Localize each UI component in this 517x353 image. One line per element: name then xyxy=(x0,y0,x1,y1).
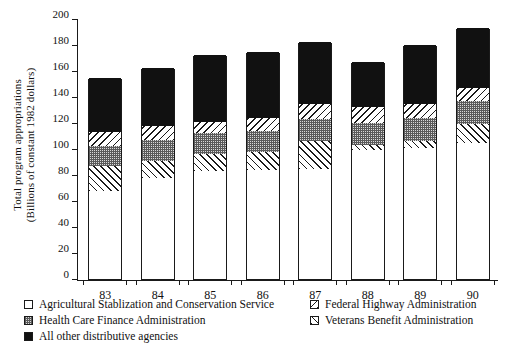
legend-item[interactable]: Health Care Finance Administration xyxy=(24,313,274,328)
x-axis-tick xyxy=(451,280,452,285)
bar-88[interactable] xyxy=(351,63,385,280)
legend-item-label: Veterans Benefit Administration xyxy=(325,313,473,328)
y-axis-title-line-2: (Billions of constant 1982 dollars) xyxy=(24,68,37,222)
y-axis-tick xyxy=(72,19,78,20)
bar-segment xyxy=(352,123,384,145)
bar-segment xyxy=(352,150,384,279)
x-axis-tick xyxy=(494,280,495,285)
bar-chart-figure: Total program appropriations (Billions o… xyxy=(0,0,517,353)
x-axis-tick xyxy=(284,280,285,285)
y-axis-tick xyxy=(72,175,78,176)
bar-85[interactable] xyxy=(193,56,227,280)
y-axis-tick-label-text: 200 xyxy=(53,14,70,15)
y-axis-tick-label-text: 100 xyxy=(53,144,70,145)
x-axis-tick xyxy=(389,280,390,285)
bar-90[interactable] xyxy=(456,29,490,280)
bar-segment xyxy=(247,170,279,279)
x-axis-tick xyxy=(231,280,232,285)
legend-swatch-icon xyxy=(24,300,33,309)
plot-area: 020406080100120140160180200 838485868788… xyxy=(78,20,498,280)
x-axis-tick xyxy=(83,280,84,285)
bar-segment xyxy=(194,171,226,279)
bar-segment xyxy=(142,140,174,161)
y-axis-tick xyxy=(72,123,78,124)
x-axis-tick xyxy=(126,280,127,285)
x-axis-tick xyxy=(336,280,337,285)
bar-segment xyxy=(352,107,384,123)
x-axis-tick xyxy=(188,280,189,285)
x-axis-tick xyxy=(241,280,242,285)
y-axis-tick-label-text: 160 xyxy=(53,66,70,67)
y-axis-title: Total program appropriations (Billions o… xyxy=(0,0,48,290)
bar-segment xyxy=(247,152,279,170)
bar-segment xyxy=(457,88,489,101)
bar-87[interactable] xyxy=(298,43,332,280)
bar-segment xyxy=(352,145,384,150)
bar-segment xyxy=(247,118,279,131)
bar-segment xyxy=(89,132,121,146)
legend-column-right: Federal Highway AdministrationVeterans B… xyxy=(310,297,476,329)
bar-segment xyxy=(457,28,489,88)
y-axis-tick xyxy=(72,227,78,228)
bar-segment xyxy=(194,154,226,171)
y-axis-tick xyxy=(72,97,78,98)
x-axis-line xyxy=(77,280,498,281)
bar-84[interactable] xyxy=(141,69,175,280)
legend-item[interactable]: All other distributive agencies xyxy=(24,329,274,344)
legend-item-label: Health Care Finance Administration xyxy=(39,313,205,328)
bar-segment xyxy=(352,62,384,108)
legend-item[interactable]: Federal Highway Administration xyxy=(310,297,476,312)
y-axis-tick xyxy=(72,149,78,150)
legend-item-label: Agricultural Stablization and Conservati… xyxy=(39,297,274,312)
y-axis-tick xyxy=(72,201,78,202)
bar-segment xyxy=(299,141,331,168)
y-axis-tick xyxy=(72,71,78,72)
legend-swatch-icon xyxy=(310,300,319,309)
bar-segment xyxy=(299,104,331,120)
bar-segment xyxy=(194,122,226,134)
y-axis-tick xyxy=(72,253,78,254)
legend-column-left: Agricultural Stablization and Conservati… xyxy=(24,297,274,345)
bar-89[interactable] xyxy=(403,46,437,280)
y-axis-tick-label-text: 80 xyxy=(58,170,69,171)
bar-segment xyxy=(247,131,279,152)
y-axis-tick-label-text: 140 xyxy=(53,92,70,93)
bar-segment xyxy=(194,133,226,154)
x-axis-tick xyxy=(346,280,347,285)
bar-segment xyxy=(299,169,331,280)
bar-segment xyxy=(299,42,331,103)
bar-segment xyxy=(457,143,489,280)
bar-segment xyxy=(89,166,121,191)
y-axis-line xyxy=(77,20,78,281)
y-axis-title-line-1: Total program appropriations xyxy=(11,68,24,222)
bar-segment xyxy=(457,124,489,142)
bar-segment xyxy=(247,52,279,118)
y-axis-tick-label-text: 20 xyxy=(58,248,69,249)
bar-segment xyxy=(404,104,436,118)
legend-swatch-icon xyxy=(24,316,33,325)
bar-86[interactable] xyxy=(246,53,280,281)
y-axis-tick-label-text: 0 xyxy=(64,274,70,275)
bar-segment xyxy=(299,119,331,141)
bar-segment xyxy=(142,161,174,178)
legend-item[interactable]: Agricultural Stablization and Conservati… xyxy=(24,297,274,312)
y-axis-tick xyxy=(72,279,78,280)
y-axis-tick-label-text: 60 xyxy=(58,196,69,197)
legend-swatch-icon xyxy=(310,316,319,325)
x-axis-tick xyxy=(441,280,442,285)
bar-segment xyxy=(89,78,121,133)
x-axis-tick xyxy=(136,280,137,285)
x-axis-tick xyxy=(293,280,294,285)
bar-segment xyxy=(404,148,436,279)
bar-segment xyxy=(194,55,226,121)
x-axis-tick xyxy=(179,280,180,285)
legend-item-label: All other distributive agencies xyxy=(39,329,178,344)
bar-83[interactable] xyxy=(88,79,122,281)
bar-segment xyxy=(89,191,121,279)
legend-swatch-icon xyxy=(24,332,33,341)
legend: Agricultural Stablization and Conservati… xyxy=(24,297,511,349)
bar-segment xyxy=(404,141,436,148)
legend-item[interactable]: Veterans Benefit Administration xyxy=(310,313,476,328)
y-axis-tick-label-text: 40 xyxy=(58,222,69,223)
bar-segment xyxy=(89,146,121,166)
